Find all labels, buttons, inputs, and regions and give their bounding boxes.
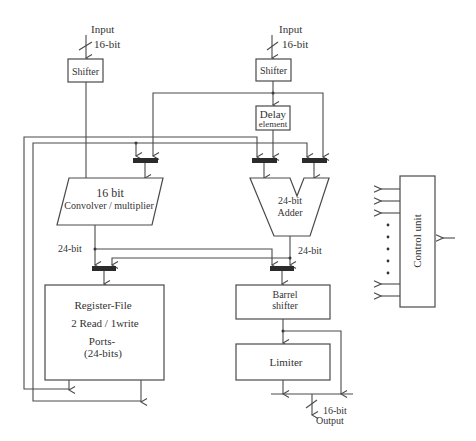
left-input-width: 16-bit bbox=[94, 38, 120, 50]
register-file-input-mux bbox=[92, 266, 116, 271]
adder: 24-bit Adder bbox=[250, 178, 329, 236]
left-shifter: Shifter bbox=[68, 59, 103, 82]
barrel-shifter-label-2: shifter bbox=[272, 300, 298, 311]
register-file: Register-File 2 Read / 1write Ports- (24… bbox=[45, 285, 164, 380]
shifter-to-convolver-mux bbox=[153, 93, 273, 156]
limiter: Limiter bbox=[236, 344, 330, 380]
register-file-label-3: Ports- bbox=[89, 335, 116, 347]
delay-element-label-2: element bbox=[259, 119, 288, 129]
dsp-block-diagram: Input 16-bit Shifter Input 16-bit Shifte… bbox=[0, 0, 476, 441]
right-shifter-label: Shifter bbox=[260, 65, 288, 76]
register-file-label-2: 2 Read / 1write bbox=[71, 317, 139, 329]
adder-input-mux-left bbox=[252, 158, 277, 163]
adder-label-2: Adder bbox=[278, 207, 304, 218]
delay-element: Delay element bbox=[256, 106, 290, 130]
control-unit: Control unit bbox=[400, 176, 435, 307]
barrel-shifter-input-mux bbox=[270, 266, 294, 271]
ellipsis-dot bbox=[387, 272, 390, 275]
ellipsis-dot bbox=[387, 248, 390, 251]
register-file-label-4: (24-bits) bbox=[84, 347, 122, 360]
adder-to-register-mux bbox=[112, 258, 290, 265]
barrel-shifter: Barrel shifter bbox=[236, 285, 330, 319]
ellipsis-dot bbox=[387, 260, 390, 263]
convolver-input-mux bbox=[133, 158, 158, 163]
adder-output-width: 24-bit bbox=[298, 245, 322, 256]
control-unit-label: Control unit bbox=[411, 214, 423, 267]
convolver-to-barrel-mux bbox=[95, 249, 272, 265]
ellipsis-dot bbox=[387, 224, 390, 227]
right-shifter: Shifter bbox=[256, 59, 291, 81]
ellipsis-dot bbox=[387, 236, 390, 239]
right-input-label: Input bbox=[279, 23, 302, 35]
left-input: Input 16-bit bbox=[79, 23, 120, 58]
convolver-label-2: Convolver / multiplier bbox=[64, 200, 154, 211]
left-shifter-label: Shifter bbox=[72, 66, 100, 77]
register-file-label-1: Register-File bbox=[74, 299, 131, 311]
right-input: Input 16-bit bbox=[267, 23, 308, 58]
adder-input-mux-right bbox=[302, 158, 327, 163]
limiter-label: Limiter bbox=[270, 356, 303, 368]
convolver-label-1: 16 bit bbox=[96, 186, 124, 200]
convolver-output-width: 24-bit bbox=[58, 243, 82, 254]
right-input-width: 16-bit bbox=[282, 38, 308, 50]
left-input-label: Input bbox=[91, 23, 114, 35]
output-label: Output bbox=[316, 415, 344, 426]
barrel-shifter-label-1: Barrel bbox=[273, 289, 298, 300]
convolver-multiplier: 16 bit Convolver / multiplier bbox=[57, 178, 163, 225]
adder-label-1: 24-bit bbox=[278, 195, 302, 206]
